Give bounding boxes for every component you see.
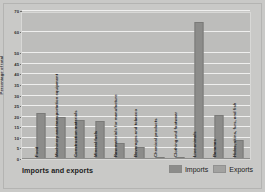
bar-slot: Food	[31, 13, 51, 159]
legend-item[interactable]: Exports	[213, 165, 253, 173]
y-tick-label: 0	[7, 158, 19, 162]
bar-slot: Chemical products	[150, 13, 170, 159]
legend-swatch	[213, 165, 226, 173]
chart-title: Imports and exports	[22, 166, 93, 175]
y-tick-label: 40	[7, 73, 19, 77]
y-tick-label: 25	[7, 105, 19, 109]
bar-slot: Construction materials	[71, 13, 91, 159]
bar-group: FoodMachinery and transportation equipme…	[22, 13, 250, 159]
chart-legend: ImportsExports	[169, 165, 253, 173]
bar-slot: Hides, skins, furs, and fish	[229, 13, 249, 159]
legend-item[interactable]: Imports	[169, 165, 208, 173]
category-label: Hides, skins, furs, and fish	[232, 103, 237, 157]
category-label: Chemical products	[153, 118, 158, 157]
bar-slot: Bananas	[209, 13, 229, 159]
bar-slot: Clothing and footwear	[170, 13, 190, 159]
category-label: Clothing and footwear	[173, 112, 178, 157]
category-label: Raw materials for manufacture	[113, 94, 118, 157]
legend-label: Imports	[185, 166, 208, 173]
y-tick-label: 35	[7, 84, 19, 88]
y-tick-label: 5	[7, 147, 19, 151]
bar-slot: Live animals	[190, 13, 210, 159]
category-label: Mineral fuels	[93, 131, 98, 157]
bar-slot: Machinery and transportation equipment	[51, 13, 71, 159]
y-tick-label: 70	[7, 10, 19, 14]
bar-slot: Raw materials for manufacture	[110, 13, 130, 159]
category-label: Construction materials	[73, 110, 78, 157]
gridline	[22, 10, 250, 11]
y-tick-label: 15	[7, 126, 19, 130]
x-axis-baseline	[22, 158, 250, 159]
category-label: Machinery and transportation equipment	[54, 74, 59, 157]
category-label: Beverages and tobacco	[133, 109, 138, 157]
y-tick-label: 50	[7, 52, 19, 56]
y-axis-tick-labels: 051015202530354045506070	[5, 12, 19, 160]
category-label: Bananas	[212, 139, 217, 157]
y-tick-label: 20	[7, 116, 19, 120]
chart-footer: Imports and exports ImportsExports	[21, 163, 253, 179]
legend-swatch	[169, 165, 182, 173]
legend-label: Exports	[229, 166, 253, 173]
bar-slot: Mineral fuels	[90, 13, 110, 159]
y-tick-label: 10	[7, 137, 19, 141]
y-tick-label: 30	[7, 95, 19, 99]
y-axis-title: Percentage of total	[0, 38, 4, 112]
category-label: Food	[34, 147, 39, 157]
chart-figure: Percentage of total 05101520253035404550…	[0, 0, 265, 192]
y-tick-label: 60	[7, 31, 19, 35]
plot-area: FoodMachinery and transportation equipme…	[21, 12, 251, 160]
category-label: Live animals	[192, 131, 197, 157]
y-tick-label: 45	[7, 63, 19, 67]
bar-slot: Beverages and tobacco	[130, 13, 150, 159]
